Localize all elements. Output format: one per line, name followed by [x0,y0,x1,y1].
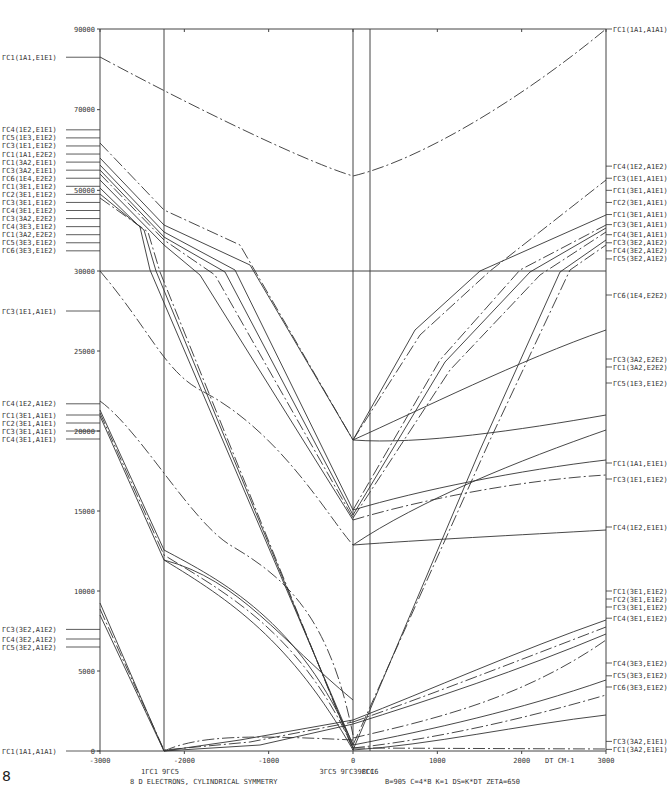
right-state-label: ΓC4(3E2,A1E2) [613,247,668,255]
left-state-label: ΓC2(3E1,A1E1) [2,420,57,428]
right-state-label: ΓC1(3E1,A1E1) [613,211,668,219]
left-state-label: ΓC4(1E2,E1E1) [2,126,57,134]
right-state-label: ΓC6(3E3,E1E2) [613,684,668,692]
right-state-label: ΓC1(3E1,E1E2) [613,588,668,596]
right-state-label: ΓC3(3A2,E2E2) [613,356,668,364]
left-state-label: ΓC3(3E1,E1E2) [2,199,57,207]
x-tick-label: -2000 [174,757,195,765]
y-tick-label: 90000 [74,26,95,34]
left-state-label: ΓC3(1E1,E1E2) [2,142,57,150]
left-state-label: ΓC1(1A1,A1A1) [2,748,57,756]
y-tick-label: 0 [91,748,95,756]
parameters-caption: B=905 C=4*B K=1 DS=K*DT ZETA=650 [385,778,520,786]
right-state-label: ΓC1(1A1,E1E1) [613,460,668,468]
left-state-label: ΓC5(3E3,E1E2) [2,239,57,247]
plot-frame [100,29,606,751]
left-state-label: ΓC1(3A2,E2E2) [2,231,57,239]
y-tick-label: 70000 [74,106,95,114]
y-axis: 0500010000150002000025000300005000070000… [74,26,100,756]
right-state-label: ΓC6(1E4,E2E2) [613,292,668,300]
right-state-label: ΓC3(3E2,A1E2) [613,239,668,247]
corner-mark: 8 [2,768,11,784]
right-state-label: ΓC4(1E2,A1E2) [613,163,668,171]
x-tick-label: 0 [351,757,355,765]
y-tick-label: 15000 [74,508,95,516]
right-state-label: ΓC2(3E1,E1E2) [613,596,668,604]
y-tick-label: 30000 [74,268,95,276]
left-state-label: ΓC1(3E1,E1E2) [2,183,57,191]
right-state-label: ΓC4(3E1,A1E1) [613,231,668,239]
right-state-label: ΓC2(3E1,A1E1) [613,199,668,207]
correlation-diagram: 0500010000150002000025000300005000070000… [0,0,668,789]
left-state-label: ΓC6(3E3,E1E2) [2,247,57,255]
left-state-label: ΓC4(3E2,A1E2) [2,636,57,644]
y-tick-label: 5000 [78,668,95,676]
crossing-label: 9ΓC1 [358,768,375,776]
y-tick-label: 50000 [74,187,95,195]
right-state-label: ΓC1(3A2,E2E2) [613,364,668,372]
right-state-label: ΓC3(3E1,E1E2) [613,604,668,612]
left-state-label: ΓC1(1A1,E2E2) [2,151,57,159]
right-state-label: ΓC3(3E1,A1E1) [613,221,668,229]
left-state-label: ΓC3(3A2,E1E1) [2,167,57,175]
x-axis: -3000-2000-10000100020003000 [89,29,614,765]
crossing-labels: 1ΓC1 9ΓC53ΓC5 9ΓC3 8ΓC69ΓC1 [141,768,378,776]
left-state-label: ΓC4(3E1,A1E1) [2,436,57,444]
left-state-label: ΓC5(3E2,A1E2) [2,644,57,652]
right-state-label: ΓC3(3A2,E1E1) [613,738,668,746]
right-state-labels: ΓC1(1A1,A1A1)ΓC4(1E2,A1E2)ΓC3(1E1,A1E1)Γ… [606,26,668,754]
right-state-label: ΓC1(3A2,E1E1) [613,746,668,754]
right-state-label: ΓC3(1E1,E1E2) [613,476,668,484]
left-state-label: ΓC3(3A2,E2E2) [2,215,57,223]
y-tick-label: 10000 [74,588,95,596]
y-tick-label: 25000 [74,348,95,356]
right-state-label: ΓC5(1E3,E1E2) [613,380,668,388]
left-state-label: ΓC5(1E3,E1E2) [2,134,57,142]
chart-title: 8 D ELECTRONS, CYLINDRICAL SYMMETRY [130,778,278,786]
right-state-label: ΓC3(1E1,A1E1) [613,175,668,183]
right-state-label: ΓC4(3E1,E1E2) [613,615,668,623]
left-state-label: ΓC1(3A2,E1E1) [2,159,57,167]
left-state-label: ΓC3(1E1,A1E1) [2,308,57,316]
right-state-label: ΓC4(3E3,E1E2) [613,660,668,668]
x-tick-label: 3000 [598,757,615,765]
left-state-label: ΓC4(3E1,E1E2) [2,207,57,215]
left-state-labels: ΓC1(1A1,E1E1)ΓC4(1E2,E1E1)ΓC5(1E3,E1E2)Γ… [2,54,100,756]
x-axis-label: DT CM-1 [545,757,575,765]
left-state-label: ΓC4(1E2,A1E2) [2,400,57,408]
left-state-label: ΓC6(1E4,E2E2) [2,175,57,183]
left-state-label: ΓC1(3E1,A1E1) [2,412,57,420]
left-state-label: ΓC3(3E1,A1E1) [2,428,57,436]
right-state-label: ΓC4(1E2,E1E1) [613,524,668,532]
right-state-label: ΓC1(3E1,A1E1) [613,187,668,195]
x-tick-label: -3000 [89,757,110,765]
x-tick-label: 1000 [429,757,446,765]
right-state-label: ΓC5(3E3,E1E2) [613,672,668,680]
left-state-label: ΓC4(3E3,E1E2) [2,223,57,231]
left-state-label: ΓC1(1A1,E1E1) [2,54,57,62]
left-state-label: ΓC2(3E1,E1E2) [2,191,57,199]
crossing-label: 1ΓC1 9ΓC5 [141,768,179,776]
right-state-label: ΓC1(1A1,A1A1) [613,26,668,34]
x-tick-label: -1000 [258,757,279,765]
y-tick-label: 20000 [74,428,95,436]
left-state-label: ΓC3(3E2,A1E2) [2,626,57,634]
x-tick-label: 2000 [513,757,530,765]
right-state-label: ΓC5(3E2,A1E2) [613,255,668,263]
